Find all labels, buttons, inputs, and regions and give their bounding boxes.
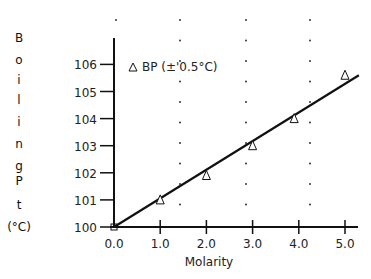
y-tick-label: 100 — [74, 221, 97, 235]
x-tick-label: 3.0 — [243, 237, 262, 251]
y-tick-label: 104 — [74, 113, 97, 127]
boiling-point-chart: 100101102103104105106 0.01.02.03.04.05.0… — [0, 0, 371, 279]
y-tick-label: 105 — [74, 86, 97, 100]
x-axis-ticks: 0.01.02.03.04.05.0 — [104, 220, 354, 251]
fit-line — [111, 75, 359, 230]
x-axis-label: Molarity — [185, 255, 233, 269]
legend-triangle-icon — [129, 63, 137, 71]
triangle-marker-icon — [341, 70, 349, 79]
y-axis-ticks: 100101102103104105106 — [74, 58, 114, 235]
x-tick-label: 4.0 — [289, 237, 308, 251]
y-tick-label: 101 — [74, 194, 97, 208]
grid-dots — [115, 19, 311, 206]
y-tick-label: 103 — [74, 140, 97, 154]
legend-label: BP (±'0.5°C) — [142, 60, 217, 74]
y-tick-label: 106 — [74, 58, 97, 72]
x-tick-label: 2.0 — [197, 237, 216, 251]
legend: BP (±'0.5°C) — [129, 60, 217, 74]
y-tick-label: 102 — [74, 167, 97, 181]
x-tick-label: 5.0 — [335, 237, 354, 251]
x-tick-label: 0.0 — [104, 237, 123, 251]
x-tick-label: 1.0 — [151, 237, 170, 251]
